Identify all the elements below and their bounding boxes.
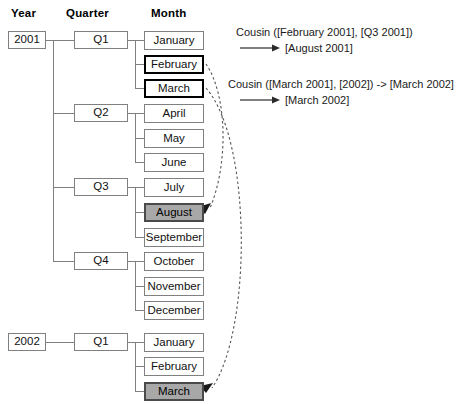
annotation-result-1: [August 2001]: [285, 43, 353, 54]
month-node-february-2002[interactable]: February: [144, 357, 204, 376]
annotation-result-2: [March 2002]: [285, 95, 349, 106]
connector-lines: [0, 0, 463, 404]
month-node-june-2001[interactable]: June: [144, 153, 204, 172]
month-node-january-2002[interactable]: January: [144, 333, 204, 352]
cousin-curve-february-to-august: [206, 64, 223, 208]
annotation-expression-1: Cousin ([February 2001], [Q3 2001]): [236, 27, 413, 38]
month-node-february-2001[interactable]: February: [144, 55, 204, 74]
month-node-january-2001[interactable]: January: [144, 31, 204, 50]
quarter-node-q2-2001[interactable]: Q2: [74, 104, 128, 122]
annotation-expression-2: Cousin ([March 2001], [2002]) -> [March …: [228, 79, 454, 90]
year-node-2001[interactable]: 2001: [8, 31, 46, 49]
column-header-quarter: Quarter: [66, 7, 109, 19]
quarter-node-q1-2002[interactable]: Q1: [74, 333, 128, 351]
month-node-july-2001[interactable]: July: [144, 178, 204, 197]
month-node-march-2002[interactable]: March: [144, 382, 204, 401]
column-header-year: Year: [11, 7, 36, 19]
month-node-october-2001[interactable]: October: [144, 252, 204, 271]
month-node-april-2001[interactable]: April: [144, 104, 204, 123]
month-node-may-2001[interactable]: May: [144, 129, 204, 148]
month-node-august-2001[interactable]: August: [144, 203, 204, 222]
quarter-node-q1-2001[interactable]: Q1: [74, 31, 128, 49]
month-node-september-2001[interactable]: September: [144, 228, 204, 247]
month-node-march-2001[interactable]: March: [144, 79, 204, 98]
quarter-node-q4-2001[interactable]: Q4: [74, 252, 128, 270]
quarter-node-q3-2001[interactable]: Q3: [74, 178, 128, 196]
cousin-function-tree-diagram: Year Quarter Month 2001 2002 Q1 Q2 Q3 Q4…: [0, 0, 463, 404]
column-header-month: Month: [151, 7, 186, 19]
cousin-curve-march-to-march: [206, 88, 241, 388]
year-node-2002[interactable]: 2002: [8, 333, 46, 351]
month-node-november-2001[interactable]: November: [144, 277, 204, 296]
month-node-december-2001[interactable]: December: [144, 301, 204, 320]
